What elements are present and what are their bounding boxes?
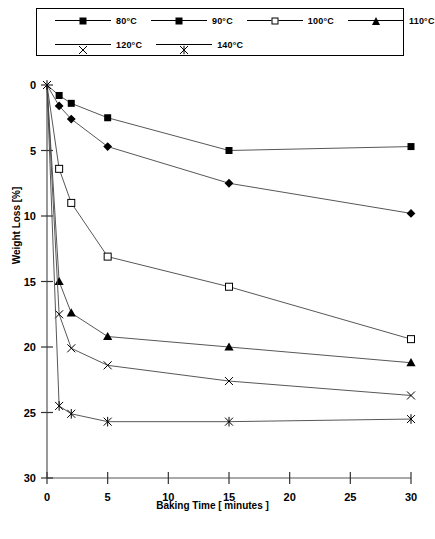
legend-sample bbox=[348, 14, 404, 28]
legend-label: 100°C bbox=[308, 16, 334, 26]
data-point-open-square bbox=[104, 253, 111, 260]
data-point-filled-square bbox=[104, 114, 111, 121]
y-tick-label: 0 bbox=[30, 79, 36, 91]
legend-sample bbox=[156, 38, 212, 52]
legend-entry-120c: 120°C bbox=[55, 38, 142, 52]
legend-entry-90c: 90°C bbox=[151, 14, 233, 28]
x-axis-title: Baking Time [ minutes ] bbox=[0, 500, 425, 511]
marker-filled-square-icon bbox=[80, 18, 87, 25]
data-point-filled-diamond bbox=[225, 179, 234, 188]
series-140c bbox=[47, 85, 415, 426]
legend-entry-140c: 140°C bbox=[156, 38, 243, 52]
series-120c bbox=[47, 85, 415, 399]
data-point-filled-triangle bbox=[103, 332, 112, 340]
series-line bbox=[47, 85, 411, 151]
chart-legend: 80°C90°C100°C110°C 120°C140°C bbox=[36, 8, 404, 56]
y-tick-label: 15 bbox=[24, 276, 36, 288]
data-point-cross-x bbox=[67, 344, 75, 352]
series-line bbox=[47, 85, 411, 339]
y-tick-label: 30 bbox=[24, 472, 36, 484]
series-line bbox=[47, 85, 411, 422]
y-tick-label: 10 bbox=[24, 210, 36, 222]
data-point-filled-triangle bbox=[67, 308, 76, 316]
legend-sample bbox=[55, 38, 111, 52]
marker-asterisk-star-icon bbox=[180, 41, 189, 50]
data-point-open-square bbox=[56, 165, 63, 172]
data-point-open-square bbox=[226, 283, 233, 290]
legend-label: 140°C bbox=[217, 40, 243, 50]
legend-label: 120°C bbox=[116, 40, 142, 50]
data-point-open-square bbox=[408, 336, 415, 343]
legend-label: 90°C bbox=[212, 16, 233, 26]
legend-entry-100c: 100°C bbox=[247, 14, 334, 28]
legend-label: 80°C bbox=[116, 16, 137, 26]
legend-sample bbox=[151, 14, 207, 28]
y-tick-label: 25 bbox=[24, 407, 36, 419]
legend-entry-110c: 110°C bbox=[348, 14, 435, 28]
marker-filled-diamond-icon bbox=[175, 18, 182, 25]
data-point-filled-diamond bbox=[407, 209, 416, 218]
legend-row-2: 120°C140°C bbox=[37, 33, 403, 57]
data-point-asterisk-star bbox=[55, 401, 63, 411]
series-line bbox=[47, 85, 411, 363]
data-point-filled-square bbox=[68, 100, 75, 107]
series-100c bbox=[47, 85, 415, 343]
chart-svg: 051015202530051015202530 bbox=[0, 60, 425, 539]
plot-area: 051015202530051015202530 Weight Loss [%]… bbox=[0, 60, 425, 539]
y-tick-label: 20 bbox=[24, 341, 36, 353]
legend-sample bbox=[55, 14, 111, 28]
data-point-filled-square bbox=[226, 147, 233, 154]
marker-cross-x-icon bbox=[79, 41, 88, 50]
data-point-filled-square bbox=[408, 143, 415, 150]
data-point-filled-square bbox=[56, 92, 63, 99]
legend-sample bbox=[247, 14, 303, 28]
legend-label: 110°C bbox=[409, 16, 435, 26]
legend-row-1: 80°C90°C100°C110°C bbox=[37, 9, 403, 33]
series-80c bbox=[47, 85, 415, 154]
y-axis-title: Weight Loss [%] bbox=[11, 166, 22, 286]
data-point-asterisk-star bbox=[67, 409, 75, 419]
marker-filled-triangle-icon bbox=[372, 17, 380, 25]
data-point-filled-triangle bbox=[55, 277, 64, 285]
data-point-filled-diamond bbox=[103, 142, 112, 151]
y-tick-label: 5 bbox=[30, 145, 36, 157]
marker-open-square-icon bbox=[271, 18, 278, 25]
data-point-open-square bbox=[68, 199, 75, 206]
legend-entry-80c: 80°C bbox=[55, 14, 137, 28]
